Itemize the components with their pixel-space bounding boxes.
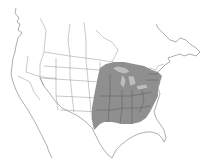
range-map (0, 0, 210, 165)
